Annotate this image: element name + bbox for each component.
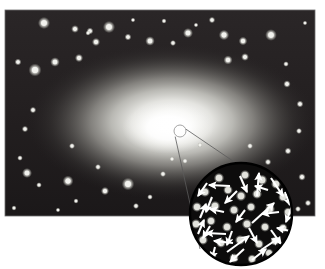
star-19 <box>285 63 288 66</box>
magnified-inset <box>190 163 293 265</box>
inset-star-12 <box>248 204 254 210</box>
galaxy-illustration-svg <box>0 0 325 269</box>
star-4 <box>94 40 98 44</box>
star-34 <box>75 200 77 202</box>
star-42 <box>184 160 187 163</box>
star-52 <box>57 209 59 211</box>
inset-star-15 <box>193 221 199 227</box>
star-25 <box>32 109 35 112</box>
star-23 <box>53 60 57 64</box>
inset-star-5 <box>225 187 231 193</box>
inset-star-16 <box>208 218 214 224</box>
star-9 <box>163 20 165 22</box>
star-46 <box>286 149 289 152</box>
star-28 <box>24 128 27 131</box>
star-29 <box>19 157 22 160</box>
star-31 <box>38 184 41 187</box>
velocity-arrow-0 <box>209 185 230 186</box>
star-48 <box>300 175 303 178</box>
star-24 <box>77 56 81 60</box>
star-15 <box>241 39 245 43</box>
star-30 <box>25 171 30 176</box>
inset-star-19 <box>262 224 268 230</box>
star-18 <box>226 58 230 62</box>
inset-star-10 <box>212 203 218 209</box>
star-35 <box>97 166 100 169</box>
star-7 <box>132 19 134 21</box>
star-5 <box>106 24 112 30</box>
star-45 <box>267 161 270 164</box>
star-41 <box>171 158 173 160</box>
inset-star-18 <box>244 221 250 227</box>
star-27 <box>298 102 301 105</box>
star-47 <box>298 130 301 133</box>
star-40 <box>162 173 165 176</box>
inset-star-9 <box>194 204 200 210</box>
star-51 <box>13 207 15 209</box>
star-13 <box>211 19 214 22</box>
inset-star-0 <box>216 175 222 181</box>
star-6 <box>126 35 129 38</box>
inset-star-2 <box>259 177 265 183</box>
star-32 <box>66 179 71 184</box>
star-0 <box>41 20 47 26</box>
star-50 <box>297 208 300 211</box>
star-26 <box>285 82 288 85</box>
star-8 <box>148 39 152 43</box>
star-10 <box>172 42 175 45</box>
star-1 <box>73 27 77 31</box>
star-17 <box>268 32 273 37</box>
star-12 <box>195 24 197 26</box>
star-11 <box>186 31 191 36</box>
star-43 <box>199 144 201 146</box>
star-37 <box>125 181 131 187</box>
star-21 <box>16 60 19 63</box>
star-20 <box>304 22 306 24</box>
inset-star-11 <box>231 207 237 213</box>
inset-star-17 <box>224 224 230 230</box>
star-49 <box>307 202 310 205</box>
star-14 <box>222 33 227 38</box>
star-36 <box>103 189 107 193</box>
inset-star-1 <box>242 172 248 178</box>
star-22 <box>32 67 38 73</box>
star-16 <box>243 55 247 59</box>
inset-star-6 <box>238 193 244 199</box>
star-44 <box>249 145 252 148</box>
star-3 <box>87 32 89 34</box>
star-33 <box>71 145 74 148</box>
velocity-arrow-18 <box>206 233 226 234</box>
star-38 <box>135 205 138 208</box>
figure-root <box>0 0 325 269</box>
star-39 <box>149 196 152 199</box>
